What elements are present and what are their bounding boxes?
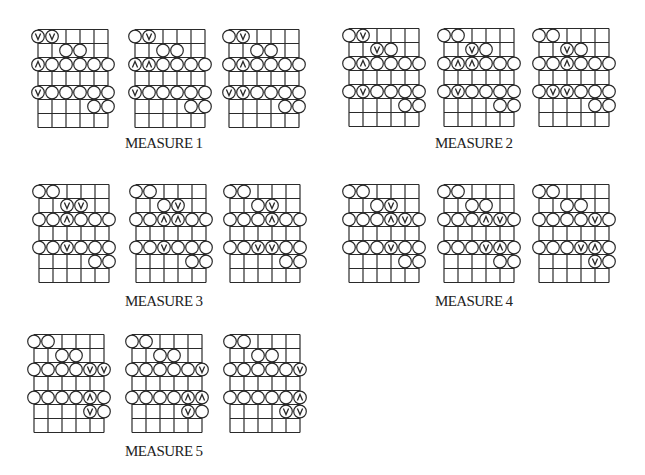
- note-circle-icon: [200, 213, 213, 226]
- note-circle-icon: [130, 213, 143, 226]
- note-circle-icon: [154, 363, 167, 376]
- note-circle-icon: [293, 100, 306, 113]
- note-circle-icon: [343, 29, 356, 42]
- note-circle-icon: [279, 58, 292, 71]
- note-circle-icon: [89, 255, 102, 268]
- note-circle-icon: [343, 85, 356, 98]
- note-circle-icon: [589, 85, 602, 98]
- note-circle-icon: [603, 99, 616, 112]
- note-circle-icon: [60, 86, 73, 99]
- note-circle-icon: [33, 213, 46, 226]
- fretboard-diagram: [539, 184, 613, 286]
- note-circle-icon: [265, 44, 278, 57]
- note-circle-icon: [280, 255, 293, 268]
- note-circle-icon: [238, 213, 251, 226]
- note-circle-icon: [343, 185, 356, 198]
- note-circle-icon: [182, 363, 195, 376]
- measure-label: MEASURE 3: [125, 293, 203, 310]
- note-circle-icon: [224, 213, 237, 226]
- note-circle-icon: [223, 30, 236, 43]
- note-circle-icon: [494, 85, 507, 98]
- note-circle-icon: [603, 213, 616, 226]
- note-circle-icon: [154, 349, 167, 362]
- note-circle-icon: [280, 213, 293, 226]
- note-circle-icon: [102, 86, 115, 99]
- note-circle-icon: [413, 57, 426, 70]
- note-circle-icon: [88, 100, 101, 113]
- note-circle-icon: [266, 349, 279, 362]
- note-circle-icon: [157, 86, 170, 99]
- note-circle-icon: [561, 241, 574, 254]
- note-circle-icon: [224, 363, 237, 376]
- note-circle-icon: [74, 86, 87, 99]
- note-circle-icon: [279, 100, 292, 113]
- note-circle-icon: [547, 213, 560, 226]
- note-circle-icon: [103, 213, 116, 226]
- fretboard-diagram: [539, 28, 613, 130]
- note-circle-icon: [399, 85, 412, 98]
- note-circle-icon: [547, 241, 560, 254]
- note-circle-icon: [294, 241, 307, 254]
- note-circle-icon: [158, 199, 171, 212]
- note-circle-icon: [89, 213, 102, 226]
- fretboard-diagram: [444, 184, 518, 286]
- note-circle-icon: [199, 58, 212, 71]
- note-circle-icon: [293, 58, 306, 71]
- note-circle-icon: [533, 85, 546, 98]
- note-circle-icon: [171, 58, 184, 71]
- note-circle-icon: [28, 363, 41, 376]
- note-circle-icon: [103, 255, 116, 268]
- note-circle-icon: [144, 213, 157, 226]
- note-circle-icon: [200, 241, 213, 254]
- note-circle-icon: [33, 185, 46, 198]
- fretboard-diagram: [349, 184, 423, 286]
- note-circle-icon: [494, 57, 507, 70]
- note-circle-icon: [98, 391, 111, 404]
- note-circle-icon: [33, 241, 46, 254]
- note-circle-icon: [343, 213, 356, 226]
- note-circle-icon: [70, 391, 83, 404]
- fretboard-diagram: [444, 28, 518, 130]
- note-circle-icon: [224, 391, 237, 404]
- note-circle-icon: [438, 185, 451, 198]
- note-circle-icon: [89, 241, 102, 254]
- fretboard-diagram: [39, 184, 113, 286]
- note-circle-icon: [238, 241, 251, 254]
- note-circle-icon: [385, 57, 398, 70]
- note-circle-icon: [199, 86, 212, 99]
- note-circle-icon: [399, 255, 412, 268]
- note-circle-icon: [547, 185, 560, 198]
- note-circle-icon: [47, 185, 60, 198]
- note-circle-icon: [75, 241, 88, 254]
- note-circle-icon: [140, 363, 153, 376]
- note-circle-icon: [168, 391, 181, 404]
- note-circle-icon: [603, 255, 616, 268]
- fretboard-diagram: [136, 184, 210, 286]
- note-circle-icon: [343, 57, 356, 70]
- note-circle-icon: [88, 58, 101, 71]
- note-circle-icon: [186, 255, 199, 268]
- note-circle-icon: [413, 241, 426, 254]
- note-circle-icon: [547, 29, 560, 42]
- note-circle-icon: [224, 185, 237, 198]
- note-circle-icon: [171, 86, 184, 99]
- note-circle-icon: [589, 57, 602, 70]
- note-circle-icon: [157, 58, 170, 71]
- fretboard-diagram: [230, 334, 304, 436]
- note-circle-icon: [452, 241, 465, 254]
- note-circle-icon: [508, 241, 521, 254]
- measure-label: MEASURE 1: [125, 135, 203, 152]
- note-circle-icon: [143, 86, 156, 99]
- note-circle-icon: [452, 29, 465, 42]
- fretboard-diagram: [229, 29, 303, 131]
- fretboard-diagram: [34, 334, 108, 436]
- note-circle-icon: [385, 85, 398, 98]
- note-circle-icon: [480, 43, 493, 56]
- note-circle-icon: [157, 44, 170, 57]
- note-circle-icon: [452, 213, 465, 226]
- note-circle-icon: [103, 241, 116, 254]
- note-circle-icon: [343, 241, 356, 254]
- note-circle-icon: [56, 363, 69, 376]
- note-circle-icon: [357, 185, 370, 198]
- note-circle-icon: [70, 363, 83, 376]
